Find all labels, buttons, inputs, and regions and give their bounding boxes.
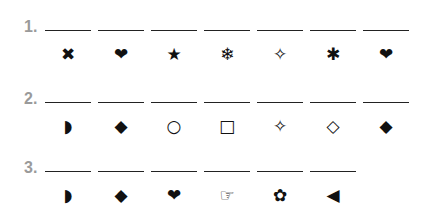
answer-blank[interactable]: [98, 102, 144, 103]
answer-blank[interactable]: [98, 171, 144, 172]
answer-blank[interactable]: [363, 30, 409, 31]
answer-blank[interactable]: [310, 102, 356, 103]
asterisk-icon: ✱: [310, 44, 356, 64]
answer-blank[interactable]: [363, 102, 409, 103]
circle-outline-icon: ○: [151, 116, 197, 136]
filled-diamond-icon: ◆: [98, 185, 144, 205]
answer-blank[interactable]: [310, 30, 356, 31]
row-number: 2.: [24, 90, 37, 108]
answer-blank[interactable]: [45, 30, 91, 31]
answer-blank[interactable]: [257, 102, 303, 103]
row-number: 3.: [24, 159, 37, 177]
left-triangle-icon: ◀: [310, 185, 356, 205]
flower-icon: ✿: [257, 185, 303, 205]
answer-blank[interactable]: [151, 171, 197, 172]
answer-blank[interactable]: [310, 171, 356, 172]
answer-blank[interactable]: [98, 30, 144, 31]
heart-icon: ❤: [98, 44, 144, 64]
four-point-star-outline-icon: ✧: [257, 44, 303, 64]
snowflake-icon: ❄: [204, 44, 250, 64]
answer-blank[interactable]: [151, 102, 197, 103]
star-icon: ★: [151, 44, 197, 64]
square-outline-icon: □: [204, 116, 250, 136]
answer-blank[interactable]: [45, 102, 91, 103]
half-circle-icon: ◗: [45, 185, 91, 205]
heart-icon: ❤: [363, 44, 409, 64]
answer-blank[interactable]: [257, 171, 303, 172]
answer-blank[interactable]: [257, 30, 303, 31]
answer-blank[interactable]: [204, 102, 250, 103]
heavy-x-icon: ✖: [45, 44, 91, 64]
diamond-outline-icon: ◇: [310, 116, 356, 136]
heart-icon: ❤: [151, 185, 197, 205]
four-point-star-outline-icon: ✧: [257, 116, 303, 136]
pointing-hand-icon: ☞: [204, 185, 250, 205]
answer-blank[interactable]: [204, 171, 250, 172]
answer-blank[interactable]: [151, 30, 197, 31]
filled-diamond-icon: ◆: [98, 116, 144, 136]
answer-blank[interactable]: [45, 171, 91, 172]
row-number: 1.: [24, 18, 37, 36]
half-circle-icon: ◗: [45, 116, 91, 136]
filled-diamond-icon: ◆: [363, 116, 409, 136]
answer-blank[interactable]: [204, 30, 250, 31]
